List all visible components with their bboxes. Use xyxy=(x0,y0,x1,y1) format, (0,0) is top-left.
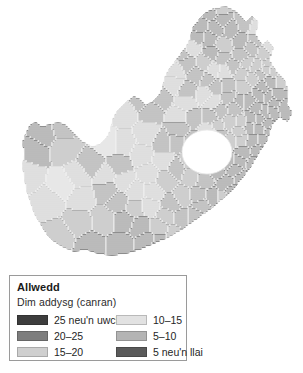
map-district[interactable] xyxy=(106,232,136,256)
legend-title: Allwedd xyxy=(17,281,179,294)
legend-swatch xyxy=(116,331,147,341)
map-district[interactable] xyxy=(246,156,258,170)
legend-entry-label: 10–15 xyxy=(153,314,182,326)
legend-swatch xyxy=(17,347,48,357)
legend-entry-label: 25 neu'n uwch xyxy=(54,314,121,326)
lesotho-enclave xyxy=(182,130,232,174)
legend-entry-label: 5 neu'n llai xyxy=(153,346,203,358)
district-layer xyxy=(22,6,292,256)
map-district[interactable] xyxy=(52,122,76,138)
map-legend: Allwedd Dim addysg (canran) 25 neu'n uwc… xyxy=(9,275,187,361)
legend-swatch xyxy=(17,331,48,341)
legend-swatch xyxy=(116,315,147,325)
legend-entry: 20–25 xyxy=(17,330,116,342)
choropleth-figure: Allwedd Dim addysg (canran) 25 neu'n uwc… xyxy=(0,0,303,373)
legend-entry-label: 15–20 xyxy=(54,346,83,358)
legend-entry: 15–20 xyxy=(17,346,116,358)
legend-swatch xyxy=(116,347,147,357)
south-africa-map[interactable] xyxy=(0,0,303,280)
enclave-layer xyxy=(182,130,232,174)
legend-entry-label: 5–10 xyxy=(153,330,176,342)
legend-entry: 5 neu'n llai xyxy=(116,346,203,358)
legend-subtitle: Dim addysg (canran) xyxy=(17,295,179,309)
legend-entry: 10–15 xyxy=(116,314,203,326)
legend-entry: 25 neu'n uwch xyxy=(17,314,116,326)
legend-entry: 5–10 xyxy=(116,330,203,342)
legend-entries: 25 neu'n uwch10–1520–255–1015–205 neu'n … xyxy=(17,312,179,360)
legend-swatch xyxy=(17,315,48,325)
map-district[interactable] xyxy=(152,234,166,244)
legend-entry-label: 20–25 xyxy=(54,330,83,342)
